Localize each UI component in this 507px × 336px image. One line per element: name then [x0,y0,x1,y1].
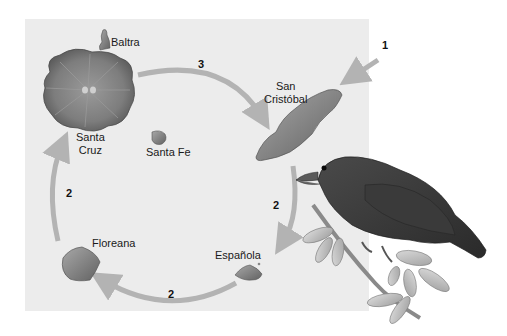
arrow-2-floreana-to-santa-cruz [52,145,62,241]
step-number-2-left: 2 [66,187,72,199]
floreana-island-icon [62,247,100,281]
step-number-2-right: 2 [273,199,279,211]
label-santa-fe: Santa Fe [146,146,191,159]
finch-illustration [296,157,486,326]
baltra-island-icon [99,30,110,50]
label-santa-cruz-line1: Santa [76,131,105,144]
step-number-2-bottom: 2 [168,288,174,300]
diagram-graphics [0,0,507,336]
label-san-cristobal-line1: San [264,80,307,93]
finch-feet [362,242,392,262]
label-santa-cruz-line2: Cruz [76,144,105,157]
label-floreana: Floreana [92,237,135,250]
label-san-cristobal-line2: Cristóbal [264,93,307,106]
finch-eye [322,166,327,171]
label-san-cristobal: San Cristóbal [264,80,307,106]
espanola-island-icon [235,265,262,280]
diagram-stage: Baltra Santa Cruz Santa Fe San Cristóbal… [0,0,507,336]
label-santa-cruz: Santa Cruz [76,131,105,157]
arrow-1-mainland-to-san-cristobal [352,60,378,77]
arrow-3-santa-cruz-to-san-cristobal [138,70,262,117]
arrow-2-san-cristobal-to-espanola [283,166,295,242]
step-number-1: 1 [382,39,388,51]
label-espanola: Española [215,249,261,262]
santa-cruz-island-icon [44,49,135,131]
step-number-3: 3 [198,58,204,70]
label-baltra: Baltra [111,36,140,49]
santa-fe-island-icon [152,131,166,145]
finch-beak [296,172,318,181]
espanola-islet-icon [258,263,261,266]
